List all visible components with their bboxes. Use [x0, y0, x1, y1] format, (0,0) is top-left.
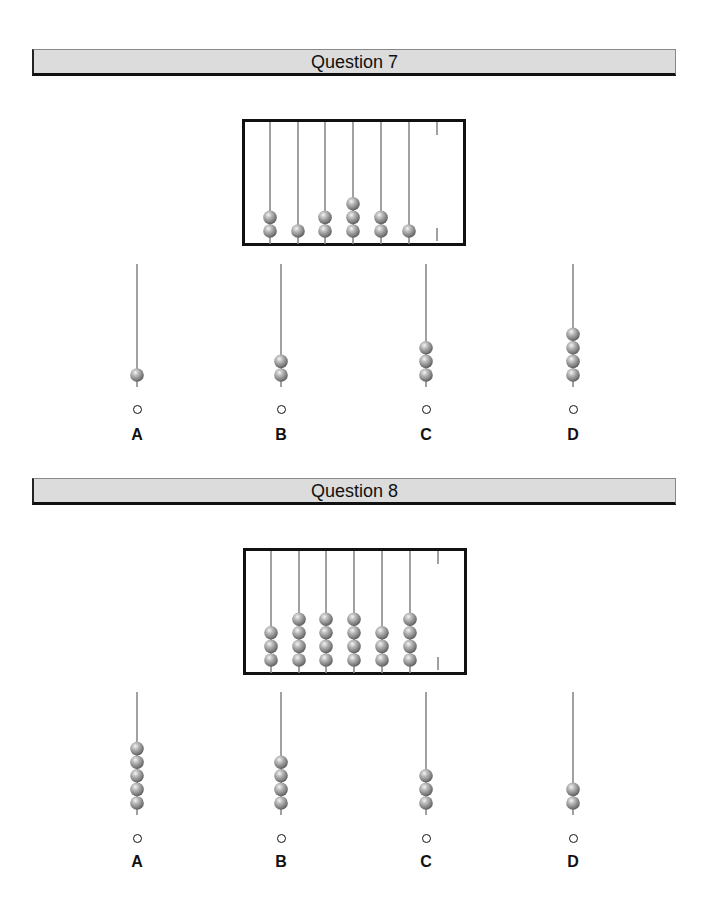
question-8-title: Question 8 [311, 481, 398, 501]
question-8-option-a-label: A [122, 853, 152, 871]
question-7-option-c-radio[interactable] [422, 405, 431, 414]
question-7-option-b-bead [274, 368, 288, 382]
question-7-option-d-bead [566, 341, 580, 355]
question-8-abacus-frame [243, 548, 467, 675]
question-7-option-b-label: B [266, 426, 296, 444]
question-8-option-d-radio[interactable] [569, 834, 578, 843]
question-7-option-d-bead [566, 368, 580, 382]
question-8-option-a-radio[interactable] [133, 834, 142, 843]
question-8-header: Question 8 [32, 478, 676, 505]
question-7-abacus-frame [242, 119, 466, 246]
question-7-option-d-bead [566, 355, 580, 369]
question-8-option-d-bead [566, 783, 580, 797]
question-8-option-a-bead [130, 742, 144, 756]
question-8-option-b-radio[interactable] [277, 834, 286, 843]
question-8-option-a-bead [130, 796, 144, 810]
question-7-option-d-radio[interactable] [569, 405, 578, 414]
question-8-option-b-label: B [266, 853, 296, 871]
question-7-option-d-label: D [558, 426, 588, 444]
question-7-title: Question 7 [311, 52, 398, 72]
question-8-option-a-bead [130, 769, 144, 783]
question-8-option-a-bead [130, 783, 144, 797]
question-7-option-b-radio[interactable] [277, 405, 286, 414]
question-7-header: Question 7 [32, 49, 676, 76]
question-8-option-c-bead [419, 783, 433, 797]
question-7-option-a-label: A [122, 426, 152, 444]
question-8-option-d-bead [566, 796, 580, 810]
question-8-option-d-label: D [558, 853, 588, 871]
question-7-option-d-bead [566, 327, 580, 341]
question-8-option-c-radio[interactable] [422, 834, 431, 843]
question-7-option-c-bead [419, 341, 433, 355]
question-7-option-a-bead [130, 368, 144, 382]
question-8-option-b-bead [274, 755, 288, 769]
question-8-option-c-bead [419, 796, 433, 810]
question-7-option-c-label: C [411, 426, 441, 444]
question-8-option-b-bead [274, 796, 288, 810]
question-8-option-b-bead [274, 783, 288, 797]
question-7-option-c-bead [419, 368, 433, 382]
question-8-option-b-bead [274, 769, 288, 783]
question-7-option-a-radio[interactable] [133, 405, 142, 414]
question-7-option-c-bead [419, 355, 433, 369]
question-8-option-c-bead [419, 769, 433, 783]
question-7-option-b-bead [274, 355, 288, 369]
question-8-option-c-label: C [411, 853, 441, 871]
question-8-option-a-bead [130, 755, 144, 769]
